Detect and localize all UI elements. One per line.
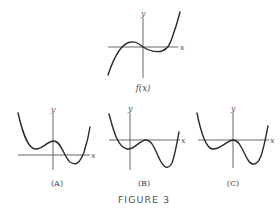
x-axis-label: x (91, 151, 96, 160)
y-axis-label: y (127, 104, 133, 113)
curve-c (197, 113, 268, 164)
panel-a: y x (A) (18, 105, 96, 188)
x-axis-label: x (270, 136, 275, 145)
curve-a (18, 113, 90, 164)
figure-3-diagram: y x f(x) y x (A) y x (B) y x (C) FIGURE … (0, 0, 280, 215)
panel-c: y x (C) (197, 104, 275, 188)
panel-f: y x f(x) (108, 9, 185, 93)
x-axis-label: x (180, 43, 185, 52)
x-axis-label: x (181, 136, 186, 145)
caption-b: (B) (138, 179, 150, 188)
y-axis-label: y (50, 105, 56, 114)
curve-f (108, 12, 180, 75)
y-axis-label: y (230, 104, 236, 113)
caption-a: (A) (51, 179, 63, 188)
y-axis-label: y (140, 9, 146, 18)
figure-title: FIGURE 3 (118, 194, 170, 205)
caption-c: (C) (227, 179, 239, 188)
panel-b: y x (B) (109, 104, 186, 188)
caption-f: f(x) (135, 83, 151, 93)
curve-b (109, 114, 179, 167)
